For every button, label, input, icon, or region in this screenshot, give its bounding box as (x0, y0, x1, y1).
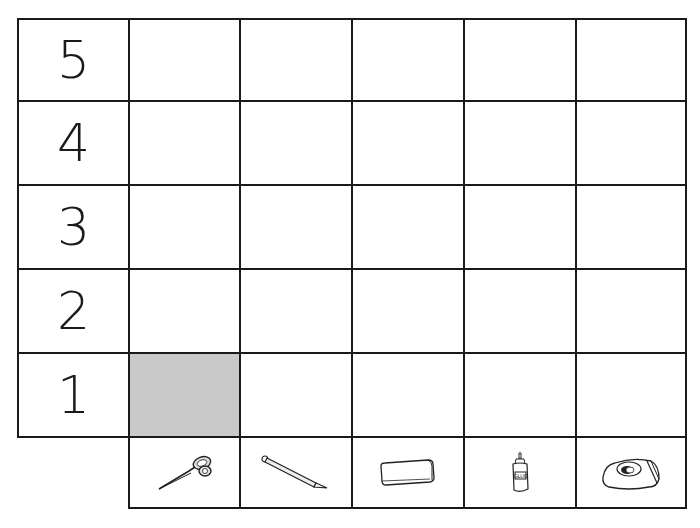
cell-r1-c3 (351, 352, 465, 438)
cell-r1-c4 (463, 352, 577, 438)
cell-r3-c3 (351, 184, 465, 270)
cell-r1-c1-filled (128, 352, 241, 438)
pencil-icon (261, 455, 331, 491)
cell-r1-c2 (239, 352, 353, 438)
glue-icon: GLUE (508, 451, 532, 495)
row-label-1: 1 (17, 352, 130, 438)
scissors-icon (155, 453, 215, 493)
cell-r3-c2 (239, 184, 353, 270)
cell-r2-c5 (575, 268, 687, 354)
cell-r4-c1 (128, 100, 241, 186)
category-eraser (351, 436, 465, 509)
category-glue: GLUE (463, 436, 577, 509)
cell-r2-c3 (351, 268, 465, 354)
category-tape (575, 436, 687, 509)
category-pencil (239, 436, 353, 509)
svg-text:GLUE: GLUE (514, 472, 527, 478)
cell-r3-c5 (575, 184, 687, 270)
row-label-3: 3 (17, 184, 130, 270)
cell-r4-c4 (463, 100, 577, 186)
cell-r5-c1 (128, 18, 241, 102)
cell-r5-c5 (575, 18, 687, 102)
row-label-4: 4 (17, 100, 130, 186)
cell-r4-c5 (575, 100, 687, 186)
cell-r5-c2 (239, 18, 353, 102)
cell-r5-c3 (351, 18, 465, 102)
cell-r2-c2 (239, 268, 353, 354)
cell-r1-c5 (575, 352, 687, 438)
cell-r4-c3 (351, 100, 465, 186)
cell-r2-c1 (128, 268, 241, 354)
cell-r3-c1 (128, 184, 241, 270)
row-label-2: 2 (17, 268, 130, 354)
cell-r2-c4 (463, 268, 577, 354)
cell-r3-c4 (463, 184, 577, 270)
category-scissors (128, 436, 241, 509)
row-label-5: 5 (17, 18, 130, 102)
eraser-icon (378, 458, 438, 488)
tape-dispenser-icon (599, 453, 663, 493)
cell-r5-c4 (463, 18, 577, 102)
cell-r4-c2 (239, 100, 353, 186)
